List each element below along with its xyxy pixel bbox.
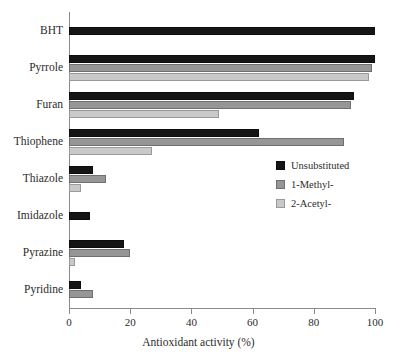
legend-label: Unsubstituted [291, 160, 349, 171]
category-label: BHT [40, 25, 63, 37]
category-label: Furan [36, 99, 63, 111]
bar [69, 166, 93, 174]
bar [69, 129, 259, 137]
x-tick-label: 80 [308, 316, 319, 328]
chart-legend: Unsubstituted1-Methyl-2-Acetyl- [276, 160, 349, 217]
bar [69, 27, 375, 35]
legend-swatch-icon [276, 161, 285, 170]
x-tick [314, 309, 315, 314]
x-tick [130, 309, 131, 314]
category-label: Pyrrole [29, 62, 63, 74]
category-label: Imidazole [17, 210, 63, 222]
x-tick [375, 309, 376, 314]
x-tick-label: 100 [367, 316, 384, 328]
bar-group: BHT [0, 12, 397, 49]
legend-entry[interactable]: 2-Acetyl- [276, 198, 349, 209]
x-tick [69, 309, 70, 314]
bar [69, 212, 90, 220]
legend-swatch-icon [276, 199, 285, 208]
bar [69, 55, 375, 63]
bar-group: Pyridine [0, 271, 397, 308]
bar [69, 258, 75, 266]
bar [69, 73, 369, 81]
category-label: Thiophene [14, 136, 63, 148]
bar [69, 101, 351, 109]
x-tick-label: 20 [125, 316, 136, 328]
bar [69, 240, 124, 248]
bar [69, 184, 81, 192]
x-tick-label: 0 [66, 316, 72, 328]
bar [69, 249, 130, 257]
legend-label: 1-Methyl- [291, 179, 334, 190]
bar [69, 92, 354, 100]
category-label: Pyridine [24, 284, 63, 296]
legend-swatch-icon [276, 180, 285, 189]
bar-group: Thiophene [0, 123, 397, 160]
bar-group: Furan [0, 86, 397, 123]
category-label: Pyrazine [23, 247, 63, 259]
x-tick [253, 309, 254, 314]
legend-entry[interactable]: Unsubstituted [276, 160, 349, 171]
bar [69, 64, 372, 72]
bar [69, 138, 344, 146]
antioxidant-activity-bar-chart: BHTPyrroleFuranThiopheneThiazoleImidazol… [0, 0, 397, 360]
category-label: Thiazole [23, 173, 63, 185]
bar [69, 175, 106, 183]
bar [69, 110, 219, 118]
legend-label: 2-Acetyl- [291, 198, 331, 209]
x-tick-label: 60 [247, 316, 258, 328]
bar [69, 290, 93, 298]
x-tick-label: 40 [186, 316, 197, 328]
bar [69, 281, 81, 289]
x-tick [191, 309, 192, 314]
legend-entry[interactable]: 1-Methyl- [276, 179, 349, 190]
x-axis-title: Antioxidant activity (%) [0, 336, 397, 348]
x-axis-line [69, 308, 376, 309]
bar-group: Pyrrole [0, 49, 397, 86]
bar [69, 147, 152, 155]
bar-group: Pyrazine [0, 234, 397, 271]
